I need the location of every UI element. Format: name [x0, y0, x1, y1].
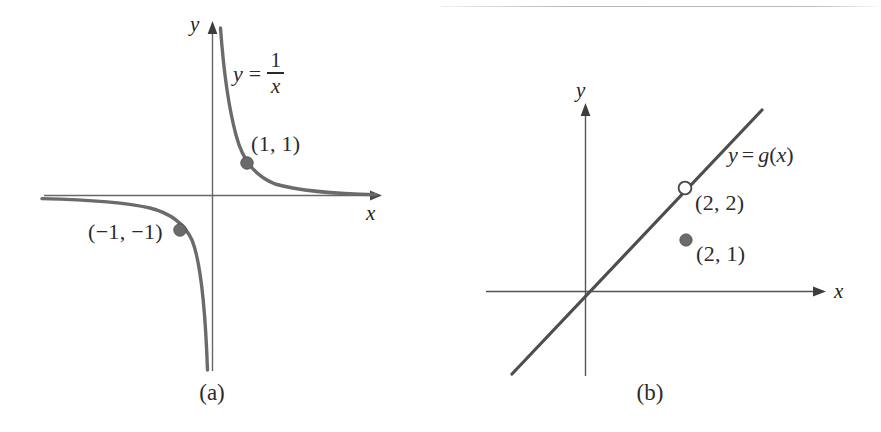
equation-label-b: y=g(x) — [728, 144, 794, 166]
y-axis-arrowhead-a — [208, 21, 218, 34]
equation-equals-a: = — [248, 63, 262, 85]
y-axis-label-b: y — [576, 80, 585, 101]
panel-caption-a: (a) — [0, 381, 424, 404]
panel-a-graph: y x y = 1 x (1, 1) (−1, −1) (a) — [0, 0, 440, 432]
point-marker-filled-2-1 — [680, 234, 692, 246]
panel-caption-b: (b) — [440, 381, 860, 404]
equation-function-name-b: g — [758, 142, 769, 167]
equation-lhs-a: y — [233, 63, 243, 85]
point-marker-open-2-2 — [679, 182, 692, 195]
equation-close-paren-b: ) — [786, 142, 793, 167]
panel-b-svg — [440, 0, 881, 432]
point-marker-neg1-neg1 — [174, 224, 186, 236]
figure-root: y x y = 1 x (1, 1) (−1, −1) (a) — [0, 0, 881, 432]
equation-open-paren-b: ( — [769, 142, 776, 167]
equation-equals-b: = — [738, 142, 758, 167]
equation-argument-b: x — [777, 142, 787, 167]
equation-label-a: y = 1 x — [233, 50, 284, 98]
equation-fraction-a: 1 x — [267, 49, 284, 97]
fraction-numerator-a: 1 — [267, 49, 284, 71]
x-axis-label-a: x — [366, 203, 375, 224]
x-axis-b — [486, 287, 826, 297]
point-label-2-2: (2, 2) — [695, 192, 744, 214]
y-axis-arrowhead-b — [581, 103, 591, 116]
point-label-1-1: (1, 1) — [251, 133, 300, 155]
x-axis-arrowhead-b — [813, 287, 826, 297]
panel-b-graph: y x y=g(x) (2, 2) (2, 1) (b) — [440, 0, 881, 432]
point-marker-1-1 — [241, 157, 253, 169]
point-label-2-1: (2, 1) — [696, 243, 745, 265]
point-label-neg1-neg1: (−1, −1) — [88, 221, 163, 243]
y-axis-b — [581, 103, 591, 376]
x-axis-label-b: x — [834, 281, 843, 302]
equation-lhs-b: y — [728, 142, 738, 167]
fraction-denominator-a: x — [268, 75, 283, 97]
y-axis-label-a: y — [190, 14, 199, 35]
